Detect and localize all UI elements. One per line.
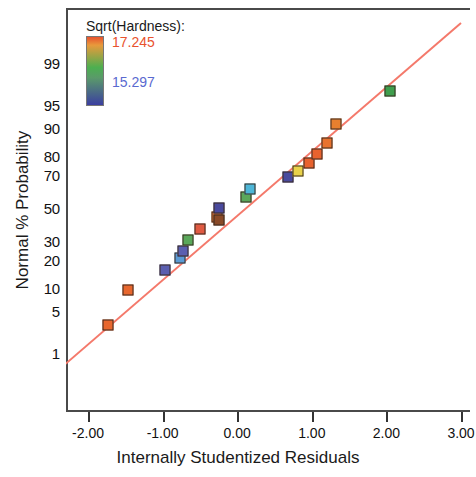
data-point [182,234,193,245]
x-axis-tick-label: 0.00 [224,425,251,441]
x-axis-tick-label: -2.00 [72,425,104,441]
data-point [331,119,342,130]
y-axis-tick-label: 99 [44,55,60,72]
legend: Sqrt(Hardness): 17.245 15.297 [86,18,185,106]
x-axis-title: Internally Studentized Residuals [0,448,476,468]
data-point [122,284,133,295]
y-axis-tick-label: 50 [44,200,60,217]
y-axis-tick-label: 30 [44,232,60,249]
y-axis-tick-labels: 99959080705030201051 [0,0,60,477]
data-point [321,138,332,149]
y-axis-tick-label: 1 [52,345,60,362]
x-axis-tick-label: 2.00 [373,425,400,441]
data-point [214,214,225,225]
x-axis-major-tick [237,412,239,422]
y-axis-tick-label: 5 [52,302,60,319]
data-point [244,183,255,194]
data-point [385,85,396,96]
data-point [159,264,170,275]
x-axis-major-tick [88,412,90,422]
x-axis-major-tick [163,412,165,422]
x-axis-major-tick [386,412,388,422]
x-axis-tick-label: 3.00 [447,425,474,441]
data-point [194,223,205,234]
legend-low-value: 15.297 [112,74,155,90]
y-axis-tick-label: 10 [44,279,60,296]
legend-body: 17.245 15.297 [86,36,185,106]
data-point [312,149,323,160]
legend-values: 17.245 15.297 [112,36,174,106]
x-axis-major-tick [312,412,314,422]
x-axis-tick-label: 1.00 [298,425,325,441]
y-axis-tick-label: 80 [44,147,60,164]
x-axis-major-tick [461,412,463,422]
data-point [282,172,293,183]
y-axis-tick-label: 95 [44,97,60,114]
y-axis-tick-label: 70 [44,167,60,184]
y-axis-tick-label: 90 [44,120,60,137]
data-point [214,203,225,214]
y-axis-tick-label: 20 [44,252,60,269]
legend-colorbar [86,36,104,106]
data-point [178,246,189,257]
chart-canvas: Normal % Probability 9995908070503020105… [0,0,476,477]
legend-title: Sqrt(Hardness): [86,18,185,34]
data-point [103,320,114,331]
x-axis-tick-label: -1.00 [147,425,179,441]
legend-high-value: 17.245 [112,34,155,50]
data-point [293,165,304,176]
